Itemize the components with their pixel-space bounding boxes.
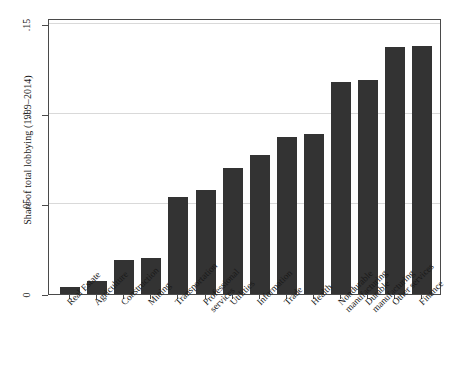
plot-area — [48, 19, 441, 295]
y-tick-label-text: .15 — [21, 12, 33, 38]
bar — [331, 82, 351, 294]
y-tick-label: .15 — [14, 19, 40, 31]
bar-series — [49, 20, 440, 294]
bar — [304, 134, 324, 294]
y-tick-label: .05 — [14, 199, 40, 211]
y-tick-label-text: .05 — [21, 192, 33, 218]
bar — [250, 155, 270, 294]
bar — [385, 47, 405, 294]
lobbying-share-bar-chart: Share of total lobbying (1999–2014) 0.05… — [0, 0, 454, 384]
y-axis-title: Share of total lobbying (1999–2014) — [18, 0, 38, 300]
y-tick-label: 0 — [14, 289, 40, 301]
x-axis-category-labels: Real EstateAgricultureConstructionMining… — [48, 300, 454, 384]
y-tick-label-text: 0 — [21, 282, 33, 308]
bar — [168, 197, 188, 294]
y-tick-label: .1 — [14, 109, 40, 121]
bar — [412, 46, 432, 294]
y-tick-label-text: .1 — [21, 102, 33, 128]
